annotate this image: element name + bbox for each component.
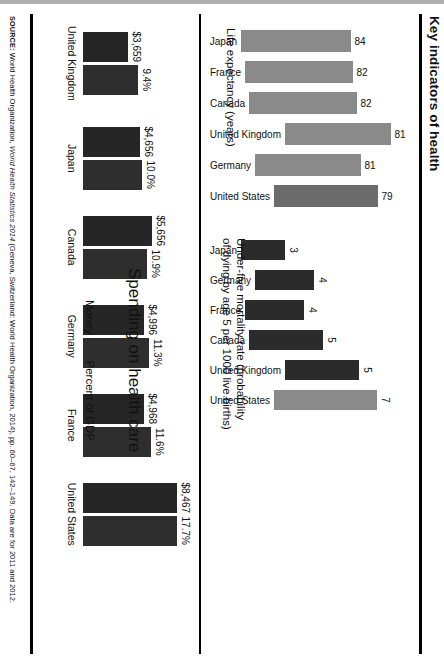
spending-group: $8,46717.7%United States [66, 483, 191, 546]
source-text-a: World Health Organization, [8, 51, 17, 146]
spending-value-label: 10.9% [150, 250, 161, 278]
bar [274, 390, 377, 410]
spending-value-label: 11.3% [152, 339, 163, 367]
spending-bar-percent-of-gdp: 10.0% [83, 160, 191, 190]
bar-value-label: 81 [365, 159, 376, 171]
bar-value-label: 4 [317, 277, 328, 283]
source-prefix: SOURCE: [8, 16, 17, 51]
spending-value-label: $3,659 [131, 32, 142, 63]
rule-top [419, 14, 422, 654]
bar [241, 30, 351, 52]
bar-value-label: 82 [360, 97, 371, 109]
bar [249, 330, 323, 350]
spending-bar-money: $4,656 [83, 127, 191, 157]
bar-slot: 81Germany [210, 154, 376, 176]
bar-value-label: 7 [380, 397, 391, 403]
source-note: SOURCE: World Health Organization, World… [8, 16, 17, 654]
spending-value-label: $5,656 [155, 215, 166, 246]
bar-category-label: United States [210, 191, 270, 202]
spending-bar-percent-of-gdp: 9.4% [83, 65, 191, 95]
bar-category-label: United Kingdom [210, 129, 281, 140]
spending-group-label: Canada [66, 229, 78, 266]
bar [285, 123, 391, 145]
bar [255, 154, 361, 176]
bar [285, 360, 359, 380]
chart-life-expectancy: 84Japan82France82Canada81United Kingdom8… [210, 26, 410, 222]
spending-bar-money: $5,656 [83, 216, 191, 246]
rotated-figure-canvas: Key indicators of health 84Japan82France… [0, 0, 444, 670]
under-five-mortality-caption: Under-five mortality rate (probability o… [220, 238, 248, 430]
spending-value-label: 11.6% [154, 428, 165, 456]
bar-value-label: 5 [326, 337, 337, 343]
spending-bar [83, 483, 177, 513]
legend-label-money: Money [84, 300, 96, 335]
spending-bar [83, 127, 140, 157]
spending-bar [83, 516, 177, 546]
bar-value-label: 3 [288, 247, 299, 253]
spending-bar [83, 160, 142, 190]
spending-group: $4,65610.0%Japan [66, 127, 191, 190]
bar-value-label: 84 [355, 35, 366, 47]
bar-value-label: 79 [381, 190, 392, 202]
spending-group-bars: $4,65610.0% [83, 127, 191, 190]
bar-slot: 81United Kingdom [210, 123, 406, 145]
bar-value-label: 5 [362, 367, 373, 373]
spending-bar [83, 65, 138, 95]
spending-group-label: Japan [66, 144, 78, 173]
legend-item-percent-of-gdp: Percent of GDP [84, 361, 112, 442]
figure-title: Key indicators of health [427, 16, 442, 171]
bar-value-label: 81 [395, 128, 406, 140]
bar [245, 61, 353, 83]
spending-group-label: Germany [66, 315, 78, 358]
spending-bar-money: $3,659 [83, 32, 191, 62]
spending-value-label: $8,467 [180, 482, 191, 513]
bar [249, 92, 357, 114]
spending-group-bars: $8,46717.7% [83, 483, 191, 546]
spending-value-label: $4,968 [147, 393, 158, 424]
spending-value-label: 10.0% [145, 161, 156, 189]
spending-group-label: France [66, 409, 78, 442]
legend-item-money: Money [84, 300, 112, 335]
spending-value-label: $4,656 [143, 126, 154, 157]
spending-bar [83, 216, 152, 246]
spending-value-label: $4,996 [147, 304, 158, 335]
bar-category-label: Germany [210, 160, 251, 171]
figure-page: Key indicators of health 84Japan82France… [0, 0, 444, 670]
source-text-b: (Geneva, Switzerland: World Health Organ… [8, 241, 17, 603]
bar-value-label: 4 [307, 307, 318, 313]
bar [245, 300, 304, 320]
spending-group-label: United Kingdom [66, 26, 78, 101]
source-title-italic: World Health Statistics 2014 [8, 146, 17, 241]
life-expectancy-caption: Life expectancy (years) [224, 28, 238, 147]
spending-value-label: 17.7% [180, 517, 191, 545]
spending-chart-title: Spending on health care [124, 268, 144, 452]
bar [255, 270, 314, 290]
legend-label-percent-of-gdp: Percent of GDP [84, 361, 96, 442]
bar-slot: 79United States [210, 185, 393, 207]
spending-group-label: United States [66, 483, 78, 546]
bar-value-label: 82 [357, 66, 368, 78]
spending-bar-money: $8,467 [83, 483, 191, 513]
page-edge-band [0, 0, 444, 4]
spending-group: $3,6599.4%United Kingdom [66, 26, 191, 101]
spending-value-label: 9.4% [141, 68, 152, 91]
spending-bar-percent-of-gdp: 17.7% [83, 516, 191, 546]
bar [274, 185, 378, 207]
rule-middle [199, 14, 201, 654]
legend-swatch-percent-of-gdp [99, 394, 112, 407]
legend-swatch-money [99, 311, 112, 324]
spending-legend: Money Percent of GDP [84, 300, 112, 441]
spending-bar [83, 32, 128, 62]
spending-group-bars: $3,6599.4% [83, 32, 191, 95]
